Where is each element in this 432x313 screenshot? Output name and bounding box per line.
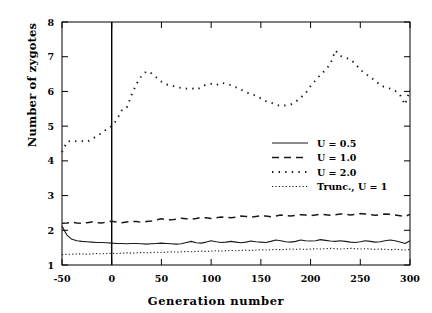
y-tick-label: 4 — [47, 155, 54, 166]
legend-label: Trunc., U = 1 — [317, 181, 387, 193]
y-tick-label: 1 — [47, 260, 54, 271]
x-tick-label: 0 — [108, 273, 115, 284]
y-tick-label: 8 — [47, 17, 54, 28]
data-series-group — [62, 50, 410, 254]
chart-canvas: -50050100150200250300 12345678 U = 0.5U … — [0, 0, 432, 313]
legend-label: U = 0.5 — [317, 138, 356, 149]
legend-label: U = 2.0 — [317, 167, 357, 178]
axes-frame — [62, 22, 410, 265]
x-tick-label: 300 — [400, 273, 420, 284]
series-line — [62, 214, 410, 224]
figure: Number of zygotes Generation number -500… — [0, 0, 432, 313]
x-tick-label: -50 — [53, 273, 71, 284]
series-line — [62, 248, 410, 254]
x-axis-ticks: -50050100150200250300 — [53, 22, 420, 284]
y-tick-label: 3 — [47, 190, 54, 201]
x-tick-label: 50 — [155, 273, 169, 284]
series-line — [62, 226, 410, 244]
legend: U = 0.5U = 1.0U = 2.0Trunc., U = 1 — [272, 138, 387, 194]
x-tick-label: 200 — [301, 273, 321, 284]
legend-label: U = 1.0 — [317, 152, 357, 163]
y-tick-label: 6 — [47, 86, 54, 97]
y-tick-label: 7 — [47, 51, 54, 62]
series-line — [62, 50, 410, 152]
x-tick-label: 100 — [201, 273, 221, 284]
x-tick-label: 250 — [350, 273, 370, 284]
y-tick-label: 5 — [47, 121, 54, 132]
y-tick-label: 2 — [47, 225, 54, 236]
x-tick-label: 150 — [251, 273, 271, 284]
